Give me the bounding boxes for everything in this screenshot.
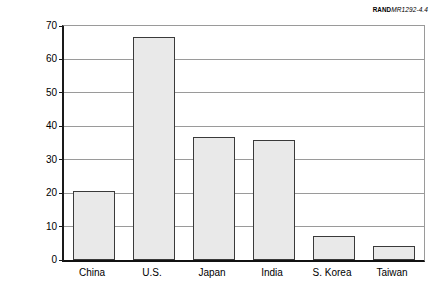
gridline: [64, 92, 424, 93]
y-axis-tick-label: 40: [46, 121, 57, 131]
y-axis-tick-label: 50: [46, 88, 57, 98]
y-axis-tick: [59, 59, 64, 60]
y-axis-tick: [59, 193, 64, 194]
gridline: [64, 159, 424, 160]
x-axis-label: Taiwan: [362, 267, 422, 279]
y-axis-tick-label: 0: [51, 255, 57, 265]
x-axis-label: U.S.: [122, 267, 182, 279]
document-number: MR1292-4.4: [391, 6, 428, 13]
gridline: [64, 226, 424, 227]
bar-u-s: [133, 37, 175, 260]
y-axis-tick: [59, 126, 64, 127]
x-axis-label: India: [242, 267, 302, 279]
plot-area: 010203040506070: [62, 25, 425, 262]
bar-india: [253, 140, 295, 260]
bar-taiwan: [373, 246, 415, 260]
y-axis-tick: [59, 26, 64, 27]
figure: RANDMR1292-4.4 Number of degrees (in tho…: [0, 0, 446, 297]
x-axis-label: China: [62, 267, 122, 279]
x-axis-label: S. Korea: [302, 267, 362, 279]
y-axis-tick: [59, 260, 64, 261]
x-axis-label: Japan: [182, 267, 242, 279]
y-axis-tick-label: 70: [46, 21, 57, 31]
gridline: [64, 126, 424, 127]
source-credit: RANDMR1292-4.4: [373, 7, 428, 14]
gridline: [64, 193, 424, 194]
y-axis-tick-label: 60: [46, 54, 57, 64]
y-axis-tick: [59, 92, 64, 93]
y-axis-tick: [59, 159, 64, 160]
bar-japan: [193, 137, 235, 260]
gridline: [64, 59, 424, 60]
bar-china: [73, 191, 115, 260]
y-axis-tick-label: 20: [46, 188, 57, 198]
rand-logo-text: RAND: [373, 6, 392, 13]
y-axis-tick-label: 30: [46, 155, 57, 165]
y-axis-tick-label: 10: [46, 222, 57, 232]
bar-s-korea: [313, 236, 355, 260]
y-axis-tick: [59, 226, 64, 227]
